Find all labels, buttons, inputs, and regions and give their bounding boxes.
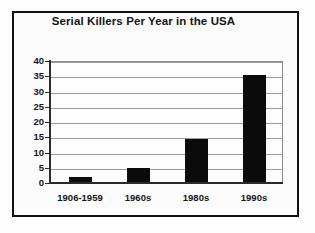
chart-title: Serial Killers Per Year in the USA xyxy=(14,15,273,27)
y-axis-tick-mark xyxy=(45,153,50,154)
x-axis-tick-label: 1960s xyxy=(109,192,167,203)
chart-figure: Serial Killers Per Year in the USA 05101… xyxy=(0,0,315,233)
y-axis-tick-mark xyxy=(45,137,50,138)
y-axis-tick-labels: 0510152025303540 xyxy=(18,0,44,233)
bar xyxy=(127,168,150,183)
y-axis-tick-mark xyxy=(45,183,50,184)
y-axis-tick-label: 30 xyxy=(20,87,44,97)
bar xyxy=(243,75,266,183)
bar xyxy=(185,139,208,183)
y-axis-tick-mark xyxy=(45,122,50,123)
y-axis-tick-mark xyxy=(45,168,50,169)
x-axis-line xyxy=(49,182,283,184)
x-axis-tick-label: 1906-1959 xyxy=(51,192,109,203)
y-axis-tick-mark xyxy=(45,76,50,77)
plot-area xyxy=(51,61,283,183)
y-axis-tick-label: 0 xyxy=(20,178,44,188)
y-axis-tick-mark xyxy=(45,107,50,108)
x-axis-tick-label: 1990s xyxy=(225,192,283,203)
y-axis-tick-label: 25 xyxy=(20,102,44,112)
y-axis-tick-mark xyxy=(45,92,50,93)
y-axis-tick-label: 20 xyxy=(20,117,44,127)
y-axis-tick-label: 15 xyxy=(20,132,44,142)
y-axis-tick-mark xyxy=(45,61,50,62)
y-axis-tick-label: 5 xyxy=(20,163,44,173)
gridline xyxy=(51,62,282,63)
x-axis-tick-label: 1980s xyxy=(167,192,225,203)
y-axis-tick-label: 10 xyxy=(20,148,44,158)
y-axis-tick-label: 40 xyxy=(20,56,44,66)
y-axis-tick-label: 35 xyxy=(20,71,44,81)
